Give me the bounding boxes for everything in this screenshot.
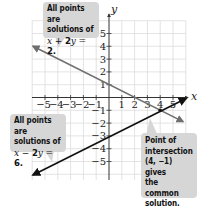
svg-text:−1: −1: [91, 105, 106, 116]
callout-text: Point of: [145, 136, 193, 147]
svg-text:2: 2: [131, 99, 137, 110]
x-axis-label: x: [191, 90, 198, 103]
callout-intersection: Point of intersection (4, −1) gives the …: [141, 133, 197, 198]
svg-text:4: 4: [100, 41, 106, 52]
intersection-point: [158, 109, 162, 113]
svg-text:−2: −2: [91, 118, 106, 129]
svg-text:1: 1: [119, 99, 125, 110]
callout-line1-solutions: All points are solutions of x + 2y = 2.: [43, 2, 99, 38]
equation-x-plus-2y-eq-2: x + 2y = 2.: [47, 36, 95, 57]
callout-text: solution.: [145, 199, 193, 208]
equation-x-minus-2y-eq-6: x − 2y = 6.: [14, 148, 62, 169]
y-axis-label: y: [110, 3, 118, 16]
callout-text: the common: [145, 178, 193, 199]
svg-text:2: 2: [100, 66, 106, 77]
svg-text:5: 5: [100, 28, 106, 39]
callout-line2-solutions: All points are solutions of x − 2y = 6.: [10, 114, 66, 152]
callout-text: (4, −1) gives: [145, 157, 193, 178]
callout-text: All points are: [14, 116, 62, 137]
callout-text: solutions of: [14, 137, 62, 148]
svg-text:3: 3: [100, 54, 106, 65]
callout-text: All points are: [47, 4, 95, 25]
svg-text:−5: −5: [91, 156, 106, 167]
callout-text: intersection: [145, 147, 193, 158]
callout-text: solutions of: [47, 25, 95, 36]
